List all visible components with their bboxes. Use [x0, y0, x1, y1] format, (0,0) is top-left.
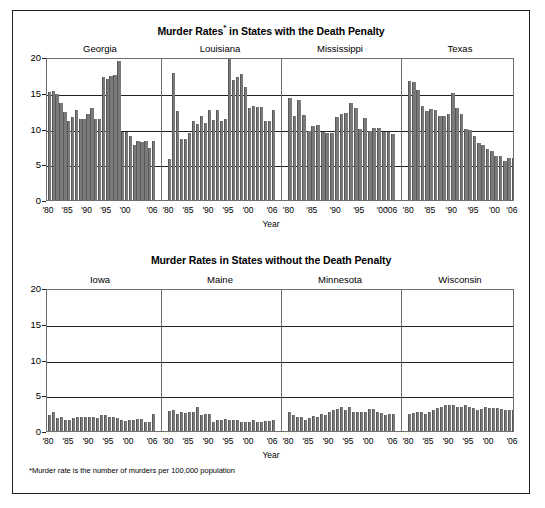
xtick-label-85: '85 [297, 436, 319, 446]
xtick-label-00: '00 [117, 436, 139, 446]
bar [297, 100, 301, 200]
state-label-georgia: Georgia [46, 43, 154, 54]
bar [168, 159, 171, 200]
chart1-ytick-mark-15 [42, 94, 46, 95]
bar [492, 408, 495, 431]
bar [192, 412, 195, 431]
bar [293, 116, 297, 200]
bar [236, 420, 239, 431]
bar [184, 413, 187, 431]
bar [140, 419, 143, 431]
bar [224, 119, 227, 200]
bar [264, 421, 267, 431]
chart2-plot-area [46, 289, 514, 432]
bar [473, 136, 477, 200]
bar [252, 106, 255, 200]
bar [144, 422, 147, 431]
bar [188, 133, 191, 200]
bar [176, 414, 179, 431]
bar [220, 121, 223, 200]
chart1-ytick-15: 15 [19, 88, 41, 99]
bar [412, 413, 415, 431]
bar [184, 139, 187, 200]
bar [352, 412, 355, 431]
chart2-ytick-mark-0 [42, 432, 46, 433]
bar [240, 422, 243, 431]
bar [349, 103, 353, 200]
bar [436, 408, 439, 431]
xtick-label-85: '85 [57, 436, 79, 446]
bar [100, 415, 103, 431]
bar [330, 133, 334, 200]
bar [260, 422, 263, 431]
bar [412, 82, 416, 200]
bar [316, 417, 319, 431]
bar [208, 110, 211, 200]
bar [507, 158, 511, 200]
bar [377, 128, 381, 200]
xtick-label-85: '85 [177, 436, 199, 446]
bar [420, 412, 423, 431]
chart1-plot-area [46, 58, 514, 201]
bar [92, 417, 95, 431]
bar [476, 410, 479, 431]
panel-separator [161, 59, 162, 200]
xtick-label-80: '80 [277, 205, 299, 215]
bar [356, 412, 359, 431]
bar [360, 412, 363, 431]
bar [447, 114, 451, 200]
xtick-label-80: '80 [397, 436, 419, 446]
bar [288, 412, 291, 431]
bar [486, 149, 490, 200]
bar [272, 110, 275, 200]
bar [325, 133, 329, 200]
chart1-ytick-10: 10 [19, 124, 41, 135]
xtick-label-00: '00 [477, 436, 499, 446]
bar [434, 110, 438, 200]
xtick-label-80: '80 [157, 436, 179, 446]
bar [88, 417, 91, 431]
xtick-label-95: '95 [337, 436, 359, 446]
bar [232, 80, 235, 200]
bar [460, 407, 463, 431]
bar [240, 74, 243, 200]
chart1-xaxis-title: Year [13, 219, 529, 229]
bar [116, 418, 119, 431]
bar [480, 409, 483, 431]
bar [76, 417, 79, 431]
xtick-label-80: '80 [397, 205, 419, 215]
bar [504, 410, 507, 431]
xtick-label-00: '00 [237, 436, 259, 446]
bar [268, 421, 271, 431]
bar [64, 420, 67, 431]
bar [468, 407, 471, 431]
bar [212, 422, 215, 431]
bar [84, 417, 87, 431]
bar [220, 420, 223, 431]
bar [500, 409, 503, 431]
bar [152, 141, 155, 200]
bar [512, 410, 514, 431]
bar [311, 126, 315, 200]
bar [444, 405, 447, 431]
xtick-label-85: '85 [301, 205, 323, 215]
bar [208, 414, 211, 431]
bar [304, 420, 307, 431]
bar [302, 115, 306, 200]
bar [316, 125, 320, 200]
bar [376, 412, 379, 431]
gridline-15 [47, 326, 513, 327]
bar [424, 414, 427, 431]
bar [321, 132, 325, 200]
xtick-label-90: '90 [197, 205, 219, 215]
bar [296, 417, 299, 431]
chart1-ytick-mark-20 [42, 58, 46, 59]
xtick-label-85: '85 [177, 205, 199, 215]
panel-separator [161, 290, 162, 431]
state-label-maine: Maine [166, 274, 274, 285]
bar [384, 415, 387, 431]
bar [442, 116, 446, 200]
bar [120, 420, 123, 431]
xtick-label-00: '00 [114, 205, 136, 215]
bar [200, 415, 203, 431]
